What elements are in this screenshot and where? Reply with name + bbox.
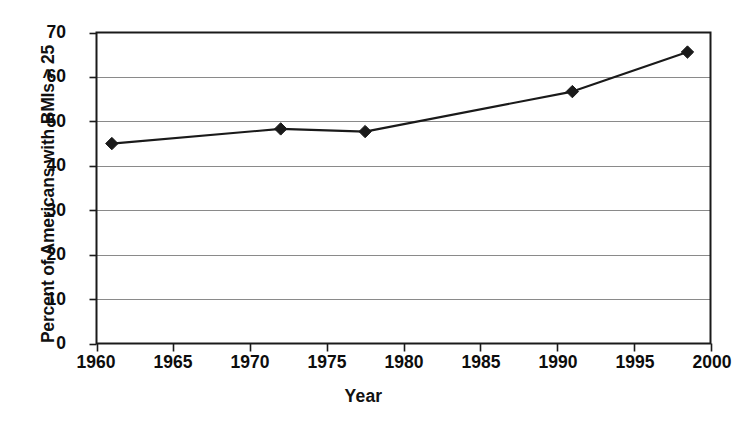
y-axis-ticks	[90, 34, 97, 345]
data-point-marker	[681, 46, 693, 58]
x-axis-ticks	[98, 344, 712, 352]
data-point-marker	[359, 125, 371, 137]
data-series-markers	[106, 46, 694, 150]
gridlines	[97, 78, 711, 300]
data-point-marker	[275, 123, 287, 135]
plot-frame	[97, 33, 711, 344]
data-series-line	[112, 52, 688, 144]
data-point-marker	[566, 85, 578, 97]
data-point-marker	[106, 137, 118, 149]
